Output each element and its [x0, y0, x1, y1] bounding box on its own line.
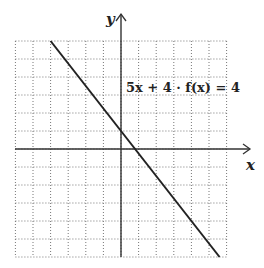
y-axis-label: y	[105, 10, 116, 28]
coordinate-plane: x y 5x + 4 · f(x) = 4	[0, 0, 264, 268]
equation-label: 5x + 4 · f(x) = 4	[126, 80, 240, 95]
x-axis-label: x	[245, 156, 256, 174]
